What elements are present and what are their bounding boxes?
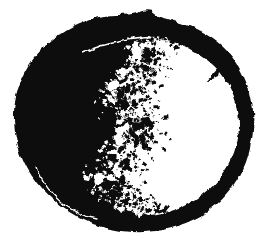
moon-ink-print (0, 0, 279, 247)
moon-print-group (14, 10, 253, 232)
artwork-canvas (0, 0, 279, 247)
